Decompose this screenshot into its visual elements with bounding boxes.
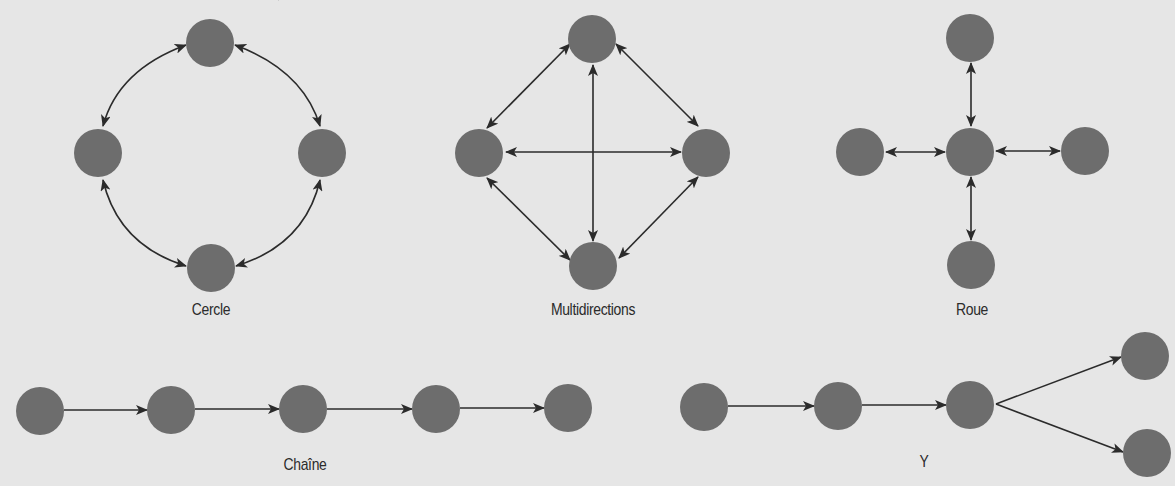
- edge-multi-right-bottom: [619, 177, 698, 258]
- node-chaine-3: [279, 385, 327, 433]
- diagram-canvas: [0, 0, 1175, 486]
- diagram-cercle: [74, 19, 346, 292]
- node-chaine-2: [147, 386, 195, 434]
- diagram-multidirections: [455, 15, 730, 290]
- node-multidirections-1: [568, 15, 616, 63]
- node-y-4: [1121, 332, 1169, 380]
- node-multidirections-3: [682, 129, 730, 177]
- node-y-3: [946, 381, 994, 429]
- label-roue: Roue: [952, 300, 991, 320]
- node-roue-5: [947, 241, 995, 289]
- node-y-5: [1123, 429, 1171, 477]
- edge-cercle-top-right: [235, 45, 320, 126]
- node-y-1: [680, 383, 728, 431]
- edge-multi-left-bottom: [487, 178, 570, 260]
- edge-cercle-top-left: [103, 45, 186, 126]
- node-chaine-5: [544, 384, 592, 432]
- node-cercle-4: [187, 244, 235, 292]
- network-types-figure: Cercle Multidirections Roue Chaîne Y: [0, 0, 1175, 486]
- node-roue-4: [1061, 127, 1109, 175]
- node-cercle-3: [298, 129, 346, 177]
- node-multidirections-2: [455, 129, 503, 177]
- node-y-2: [814, 382, 862, 430]
- edge-multi-top-right: [616, 44, 698, 126]
- label-cercle: Cercle: [188, 300, 235, 320]
- label-chaine: Chaîne: [279, 455, 331, 475]
- node-cercle-1: [186, 19, 234, 67]
- node-roue-2: [836, 128, 884, 176]
- node-chaine-1: [16, 387, 64, 435]
- node-cercle-2: [74, 129, 122, 177]
- edge-y-3-upper: [996, 357, 1121, 404]
- diagram-roue: [836, 14, 1109, 289]
- label-multidirections: Multidirections: [542, 300, 645, 320]
- node-chaine-4: [412, 385, 460, 433]
- node-roue-3: [946, 128, 994, 176]
- edge-y-3-lower: [996, 404, 1123, 452]
- node-roue-1: [946, 14, 994, 62]
- edge-multi-top-left: [487, 44, 570, 128]
- diagram-chaine: [16, 384, 592, 435]
- label-y: Y: [919, 452, 930, 472]
- node-multidirections-4: [569, 242, 617, 290]
- edge-cercle-right-bottom: [236, 180, 320, 266]
- edge-cercle-left-bottom: [103, 180, 186, 266]
